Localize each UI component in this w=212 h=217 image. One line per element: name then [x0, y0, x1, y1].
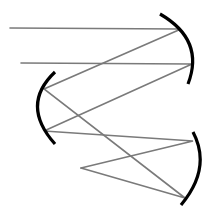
ray-1 — [10, 28, 185, 198]
optical-ray-diagram — [0, 0, 212, 217]
mirrors — [38, 14, 201, 205]
left-mirror — [38, 72, 56, 144]
top-right-mirror — [160, 14, 193, 84]
